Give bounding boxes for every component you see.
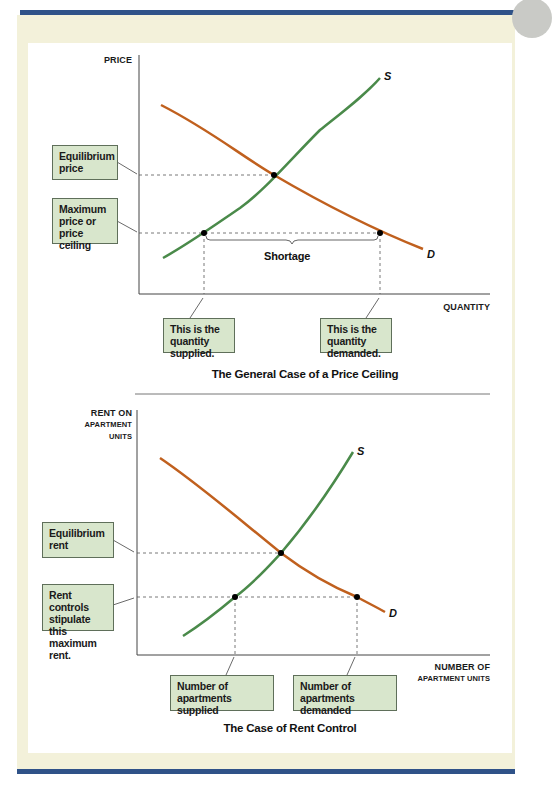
bottom-qd-leader xyxy=(347,657,355,675)
top-supply-label: S xyxy=(384,70,391,82)
top-qd-leader xyxy=(366,298,379,318)
bottom-x-label-line1: Number of xyxy=(400,661,490,673)
top-eq-leader xyxy=(117,162,137,174)
top-qs-point xyxy=(201,230,207,236)
bottom-y-axis-label: Rent on apartment units xyxy=(60,407,132,443)
bottom-x-axis-label: Number of apartment units xyxy=(400,661,490,685)
equilibrium-price-callout: Equilibrium price xyxy=(52,145,118,180)
bottom-chart-caption: The Case of Rent Control xyxy=(190,722,390,734)
shortage-label: Shortage xyxy=(264,250,310,262)
top-qs-leader xyxy=(190,298,203,318)
bottom-eq-leader xyxy=(113,540,134,552)
bottom-max-leader xyxy=(113,598,134,605)
top-y-axis-label: Price xyxy=(104,54,134,66)
price-ceiling-callout: Maximum price or price ceiling xyxy=(52,198,118,244)
bottom-chart xyxy=(113,410,490,675)
equilibrium-rent-callout: Equilibrium rent xyxy=(42,522,114,558)
top-demand-label: D xyxy=(427,248,435,260)
bottom-demand-curve xyxy=(160,458,385,612)
bottom-demand-label: D xyxy=(389,607,397,619)
top-max-leader xyxy=(117,221,137,232)
bottom-y-label-line2: apartment xyxy=(60,419,132,431)
top-demand-curve xyxy=(161,105,423,249)
bottom-y-label-line1: Rent on xyxy=(60,407,132,419)
bottom-supply-label: S xyxy=(357,445,364,457)
bottom-x-label-line2: apartment units xyxy=(400,673,490,685)
bottom-qd-point xyxy=(354,594,360,600)
bottom-y-label-line3: units xyxy=(60,431,132,443)
bottom-qs-leader xyxy=(226,657,234,675)
apartments-demanded-callout: Number of apartments demanded xyxy=(293,675,397,711)
quantity-demanded-callout: This is the quantity demanded. xyxy=(320,318,392,353)
top-supply-curve xyxy=(163,78,380,258)
top-qd-point xyxy=(377,230,383,236)
shortage-bracket xyxy=(206,236,378,244)
apartments-supplied-callout: Number of apartments supplied xyxy=(170,675,274,711)
bottom-equilibrium-point xyxy=(278,550,284,556)
max-rent-callout: Rent controls stipulate this maximum ren… xyxy=(42,584,114,631)
quantity-supplied-callout: This is the quantity supplied. xyxy=(163,318,235,353)
bottom-qs-point xyxy=(232,594,238,600)
top-chart xyxy=(117,55,490,318)
top-equilibrium-point xyxy=(271,172,277,178)
top-x-axis-label: Quantity xyxy=(425,301,490,313)
top-chart-caption: The General Case of a Price Ceiling xyxy=(180,368,430,380)
